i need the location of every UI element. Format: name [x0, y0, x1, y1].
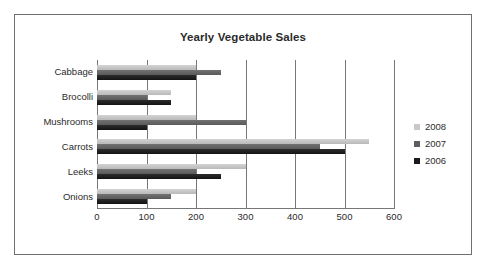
grid-line-600: [394, 60, 395, 209]
x-axis-tick-labels: 0100200300400500600: [97, 211, 394, 227]
plot-area: [97, 60, 394, 209]
chart-frame: Yearly Vegetable Sales CabbageBrocolliMu…: [14, 14, 472, 255]
category-label: Mushrooms: [43, 116, 93, 127]
x-tick-label: 200: [188, 211, 204, 222]
category-axis-labels: CabbageBrocolliMushroomsCarrotsLeeksOnio…: [15, 60, 93, 209]
legend-label: 2008: [425, 121, 446, 132]
bar-group: [97, 159, 394, 184]
x-tick-label: 500: [337, 211, 353, 222]
legend-label: 2006: [425, 155, 446, 166]
bar-group: [97, 184, 394, 209]
category-label: Carrots: [62, 141, 93, 152]
bar: [97, 100, 171, 105]
category-label: Cabbage: [54, 66, 93, 77]
bar-group: [97, 135, 394, 160]
legend-label: 2007: [425, 138, 446, 149]
bar: [97, 75, 196, 80]
bar-group: [97, 110, 394, 135]
chart-legend: 200820072006: [414, 118, 466, 169]
x-tick-label: 400: [287, 211, 303, 222]
bar: [97, 174, 221, 179]
bar: [97, 149, 345, 154]
legend-swatch-icon: [414, 141, 420, 147]
x-tick-label: 600: [386, 211, 402, 222]
category-label: Onions: [63, 191, 93, 202]
chart-title: Yearly Vegetable Sales: [15, 31, 471, 43]
legend-item-2008[interactable]: 2008: [414, 118, 466, 135]
x-tick-label: 300: [238, 211, 254, 222]
category-label: Brocolli: [62, 91, 93, 102]
bar-group: [97, 60, 394, 85]
bar: [97, 199, 147, 204]
legend-swatch-icon: [414, 158, 420, 164]
legend-item-2007[interactable]: 2007: [414, 135, 466, 152]
x-tick-label: 100: [139, 211, 155, 222]
bar-group: [97, 85, 394, 110]
legend-swatch-icon: [414, 124, 420, 130]
legend-item-2006[interactable]: 2006: [414, 152, 466, 169]
x-tick-label: 0: [94, 211, 99, 222]
bar: [97, 125, 147, 130]
category-label: Leeks: [68, 166, 93, 177]
